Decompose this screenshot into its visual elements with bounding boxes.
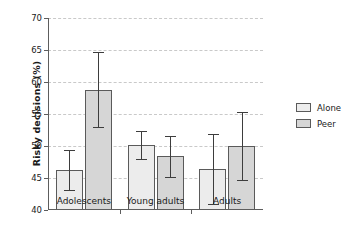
error-bar-cap [165,177,176,178]
error-bar-cap [64,190,75,191]
error-bar [213,134,214,204]
legend-swatch-icon [296,103,311,112]
bar-chart-figure: Risky decisions (%) 40455055606570 Adole… [0,0,352,245]
legend-item: Alone [296,101,341,114]
legend-item: Peer [296,117,341,130]
y-tick-label: 65 [31,45,42,55]
error-bar [141,131,142,159]
x-tick-mark [191,210,192,214]
x-axis-group-label: Adolescents [57,196,111,206]
x-axis-group-label: Young adults [127,196,184,206]
gridline [48,114,263,115]
legend-label: Alone [317,103,341,113]
error-bar-cap [93,52,104,53]
x-axis-group-label: Adults [213,196,241,206]
error-bar [170,136,171,177]
error-bar-cap [208,134,219,135]
gridline [48,18,263,19]
x-axis-line [48,209,263,210]
error-bar-cap [237,112,248,113]
x-tick-mark [120,210,121,214]
gridline [48,50,263,51]
error-bar [242,112,243,180]
error-bar-cap [93,127,104,128]
error-bar-cap [165,136,176,137]
error-bar-cap [136,159,147,160]
error-bar [98,52,99,127]
y-tick-mark [44,210,48,211]
y-tick-label: 40 [31,205,42,215]
error-bar [69,150,70,190]
plot-area: 40455055606570 [48,18,263,210]
y-tick-label: 70 [31,13,42,23]
gridline [48,82,263,83]
y-tick-label: 50 [31,141,42,151]
error-bar-cap [136,131,147,132]
y-tick-label: 45 [31,173,42,183]
y-tick-label: 60 [31,77,42,87]
y-tick-label: 55 [31,109,42,119]
legend: AlonePeer [296,101,341,133]
legend-label: Peer [317,119,336,129]
error-bar-cap [64,150,75,151]
y-axis-line [48,18,49,210]
error-bar-cap [237,180,248,181]
legend-swatch-icon [296,119,311,128]
